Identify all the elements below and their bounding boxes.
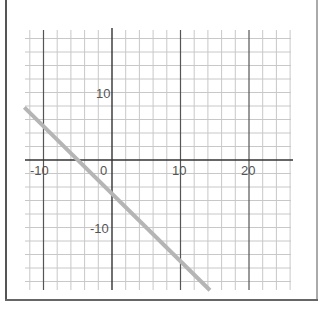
x-tick-label-0: 0 (100, 163, 107, 178)
x-tick-label-neg10: -10 (30, 163, 49, 178)
y-tick-label-neg10: -10 (90, 221, 109, 236)
y-tick-label-10: 10 (96, 86, 110, 101)
series-line (24, 107, 210, 290)
axes (25, 28, 293, 290)
coordinate-plane: -10 0 10 20 10 -10 (0, 0, 325, 311)
x-tick-label-20: 20 (241, 163, 255, 178)
x-tick-label-10: 10 (172, 163, 186, 178)
data-series (24, 107, 210, 290)
